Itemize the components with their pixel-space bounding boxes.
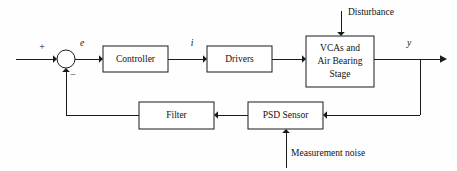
block-vcas-label-line2: Air Bearing bbox=[317, 56, 362, 66]
wire-measurement-noise-into-sensor bbox=[282, 129, 290, 168]
wire-reference-input bbox=[16, 55, 57, 63]
wire-sensor-to-filter bbox=[214, 111, 248, 119]
summing-junction bbox=[57, 50, 75, 68]
block-vcas-label-line3: Stage bbox=[329, 69, 350, 79]
block-diagram-canvas: Controller Drivers VCAs and Air Bearing … bbox=[0, 0, 457, 171]
current-signal-label: i bbox=[191, 38, 194, 48]
wire-controller-to-drivers bbox=[168, 55, 207, 63]
block-filter-label: Filter bbox=[166, 110, 187, 120]
summing-junction-minus-sign: − bbox=[70, 69, 76, 80]
wire-disturbance-into-plant bbox=[337, 11, 345, 36]
block-vcas-label-line1: VCAs and bbox=[320, 43, 360, 53]
wire-drivers-to-plant bbox=[272, 55, 306, 63]
summing-junction-plus-sign: + bbox=[39, 41, 45, 52]
error-signal-label: e bbox=[80, 38, 84, 48]
output-signal-label: y bbox=[406, 38, 412, 48]
block-diagram-svg: Controller Drivers VCAs and Air Bearing … bbox=[0, 0, 457, 171]
disturbance-label: Disturbance bbox=[348, 7, 394, 17]
block-drivers-label: Drivers bbox=[225, 54, 254, 64]
wire-output-to-sensor bbox=[323, 111, 420, 119]
block-psd-sensor-label: PSD Sensor bbox=[263, 110, 309, 120]
wire-error-to-controller bbox=[75, 55, 103, 63]
measurement-noise-label: Measurement noise bbox=[291, 148, 365, 158]
wire-plant-output bbox=[374, 55, 447, 115]
block-controller-label: Controller bbox=[116, 54, 156, 64]
